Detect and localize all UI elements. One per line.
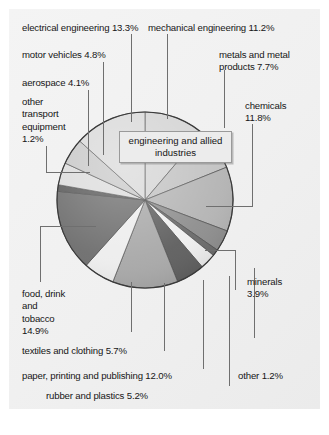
- leader-food-drink-v: [40, 226, 41, 282]
- leader-other-transport-v: [46, 146, 47, 173]
- leader-rubber-plastics: [203, 280, 204, 369]
- label-metals-and-metal-products: metals and metal products 7.7%: [219, 49, 290, 74]
- leader-paper-printing: [164, 283, 165, 351]
- label-other-transport-equipment: other transport equipment 1.2%: [22, 96, 65, 146]
- leader-minerals-h: [205, 250, 236, 251]
- label-chemicals: chemicals 11.8%: [245, 100, 286, 125]
- leader-chemicals: [252, 124, 253, 206]
- label-minerals: minerals 3.9%: [247, 276, 282, 301]
- label-mechanical-engineering: mechanical engineering 11.2%: [148, 22, 274, 34]
- label-electrical-engineering: electrical engineering 13.3%: [22, 22, 138, 34]
- center-callout: engineering and allied industries: [119, 131, 232, 163]
- label-other: other 1.2%: [238, 370, 283, 382]
- label-aerospace: aerospace 4.1%: [22, 77, 89, 89]
- label-food-drink-and-tobacco: food, drink and tobacco 14.9%: [22, 288, 65, 338]
- label-rubber-and-plastics: rubber and plastics 5.2%: [46, 390, 148, 402]
- leader-minerals: [235, 250, 236, 290]
- leader-food-drink-h: [40, 226, 96, 227]
- leader-wood-products: [229, 276, 230, 386]
- leader-other-transport-h: [46, 172, 90, 173]
- pie-chart-figure: electrical engineering 13.3% mechanical …: [0, 0, 329, 435]
- leader-electrical-engineering: [131, 34, 132, 122]
- bottom-caption-fragment: [14, 425, 314, 434]
- leader-chemicals-h: [206, 206, 253, 207]
- leader-textiles: [131, 282, 132, 332]
- leader-motor-vehicles: [103, 62, 104, 155]
- label-motor-vehicles: motor vehicles 4.8%: [22, 49, 106, 61]
- leader-mechanical-engineering: [167, 34, 168, 119]
- leader-aerospace: [88, 90, 89, 166]
- leader-metals-products: [224, 70, 225, 128]
- label-textiles-and-clothing: textiles and clothing 5.7%: [22, 345, 127, 357]
- label-paper-printing-and-publishing: paper, printing and publishing 12.0%: [22, 370, 172, 382]
